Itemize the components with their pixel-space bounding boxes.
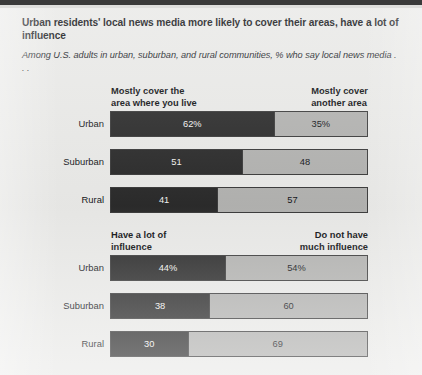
bar-segment-secondary: 48 (243, 150, 367, 174)
bar-row-label-rural: Rural (0, 331, 104, 357)
bar-segment-primary: 30 (111, 332, 189, 356)
stacked-bar: 5148 (110, 149, 368, 175)
stacked-bar: 62%35% (110, 111, 368, 137)
bar-row: Suburban5148 (0, 149, 422, 175)
bar-segment-primary: 62% (111, 112, 275, 136)
bar-row-label-rural: Rural (0, 187, 104, 213)
page-title: Urban residents' local news media more l… (22, 16, 400, 42)
bar-segment-secondary: 35% (275, 112, 367, 136)
bar-segment-secondary: 54% (226, 256, 367, 280)
figure-subtitle: Among U.S. adults in urban, suburban, an… (22, 49, 400, 74)
column-header-right-influence: Do not have much influence (300, 230, 368, 254)
bar-row: Rural3069 (0, 331, 422, 357)
bar-segment-primary: 38 (111, 294, 210, 318)
top-edge-band-secondary (0, 5, 422, 8)
stacked-bar: 3860 (110, 293, 368, 319)
bar-row: Urban62%35% (0, 111, 422, 137)
bar-segment-secondary: 57 (218, 188, 367, 212)
stacked-bar: 44%54% (110, 255, 368, 281)
bar-segment-secondary: 69 (189, 332, 367, 356)
bar-row-label-suburban: Suburban (0, 149, 104, 175)
figure-container: Urban residents' local news media more l… (0, 0, 422, 375)
bar-rows-influence: Urban44%54%Suburban3860Rural3069 (0, 255, 422, 357)
bar-row: Suburban3860 (0, 293, 422, 319)
bar-row-label-urban: Urban (0, 255, 104, 281)
bar-row-label-suburban: Suburban (0, 293, 104, 319)
column-headers-coverage: Mostly cover the area where you live Mos… (0, 86, 422, 111)
bar-row: Rural4157 (0, 187, 422, 213)
chart-panel-influence: Have a lot of influence Do not have much… (0, 230, 422, 357)
bar-rows-coverage: Urban62%35%Suburban5148Rural4157 (0, 111, 422, 213)
chart-panel-coverage: Mostly cover the area where you live Mos… (0, 86, 422, 213)
bar-segment-primary: 44% (111, 256, 226, 280)
column-header-left-coverage: Mostly cover the area where you live (111, 86, 197, 110)
column-header-right-coverage: Mostly cover another area (311, 86, 368, 110)
column-headers-influence: Have a lot of influence Do not have much… (0, 230, 422, 255)
column-header-left-influence: Have a lot of influence (111, 230, 166, 254)
bar-row: Urban44%54% (0, 255, 422, 281)
bar-segment-secondary: 60 (210, 294, 367, 318)
bar-segment-primary: 51 (111, 150, 243, 174)
bar-segment-primary: 41 (111, 188, 218, 212)
bar-row-label-urban: Urban (0, 111, 104, 137)
stacked-bar: 3069 (110, 331, 368, 357)
stacked-bar: 4157 (110, 187, 368, 213)
